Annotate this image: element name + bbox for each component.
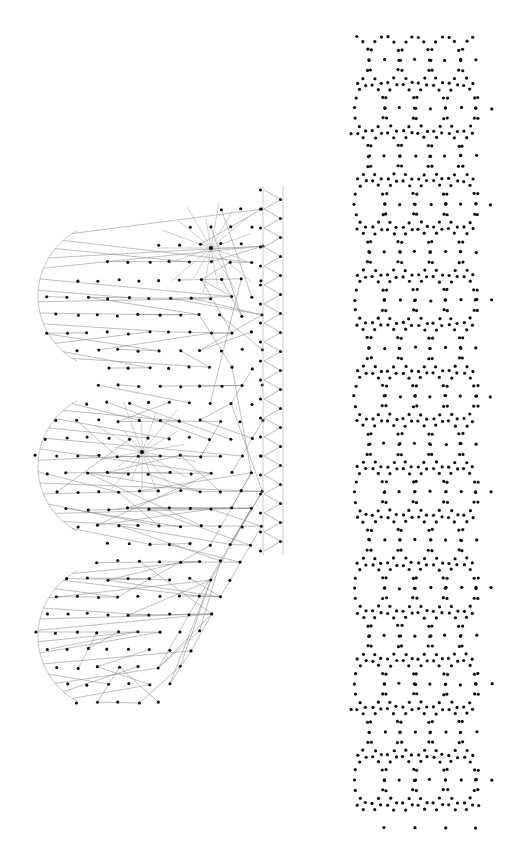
ring-dot (435, 173, 438, 176)
lattice-dot (230, 506, 233, 509)
ring-dot (381, 384, 384, 387)
ring-dot (383, 778, 386, 781)
ring-dot (384, 673, 387, 676)
ring-dot (417, 515, 420, 518)
ring-dot (364, 513, 367, 516)
ring-dot (395, 755, 398, 758)
connector-segment (169, 545, 240, 563)
ring-dot (450, 280, 453, 283)
ring-dot (454, 749, 457, 752)
ring-dot (402, 129, 405, 132)
lattice-dot (105, 648, 108, 651)
ring-dot (359, 605, 362, 608)
ring-dot (447, 419, 450, 422)
ring-dot (380, 35, 383, 38)
ring-center-dot (383, 250, 386, 253)
ring-dot (415, 692, 418, 695)
ring-dot (426, 48, 429, 51)
ring-dot (389, 124, 392, 127)
ring-dot (398, 347, 401, 350)
ring-dot (438, 183, 441, 186)
ring-dot (370, 529, 373, 532)
ring-dot (386, 419, 389, 422)
connector-segment (158, 631, 199, 668)
ring-dot (430, 48, 433, 51)
lattice-dot (157, 244, 160, 247)
lattice-dot (127, 367, 130, 370)
lattice-dot (46, 472, 49, 475)
lattice-dot (208, 366, 211, 369)
ring-dot (366, 260, 369, 263)
lattice-dot (137, 455, 140, 458)
ring-dot (427, 432, 430, 435)
ring-dot (377, 760, 380, 763)
ring-dot (427, 241, 430, 244)
ring-dot (476, 384, 479, 387)
ring-dot (415, 404, 418, 407)
ring-dot (392, 136, 395, 139)
ring-dot (443, 213, 446, 216)
ring-dot (465, 808, 468, 811)
lattice-dot (86, 471, 89, 474)
lattice-dot (149, 261, 152, 264)
ring-dot (381, 404, 384, 407)
rail-vertex-dot (259, 341, 262, 344)
ring-dot (427, 453, 430, 456)
ring-center-dot (413, 826, 416, 829)
ring-dot (381, 768, 384, 771)
ring-dot (471, 177, 474, 180)
lattice-dot (76, 631, 79, 634)
lattice-dot (137, 280, 140, 283)
ring-dot (414, 298, 417, 301)
ring-dot (358, 317, 361, 320)
ring-dot (420, 184, 423, 187)
ring-dot (476, 288, 479, 291)
ring-dot (404, 712, 407, 715)
ring-dot (430, 144, 433, 147)
lattice-dot (77, 525, 80, 528)
ring-dot (474, 586, 477, 589)
ring-dot (377, 88, 380, 91)
ring-dot (400, 48, 403, 51)
ring-dot (456, 467, 459, 470)
ring-dot (412, 577, 415, 580)
ring-dot (442, 193, 445, 196)
lattice-dot (127, 473, 130, 476)
lattice-dot (178, 630, 181, 633)
ring-dot (444, 202, 447, 205)
ring-dot (468, 472, 471, 475)
ring-dot (407, 88, 410, 91)
ring-dot (415, 213, 418, 216)
ring-dot (386, 516, 389, 519)
ring-dot (438, 317, 441, 320)
ring-dot (379, 274, 382, 277)
lattice-dot (118, 278, 121, 281)
lattice-dot (45, 295, 48, 298)
lattice-dot (96, 701, 99, 704)
lattice-dot (200, 278, 203, 281)
lattice-dot (187, 613, 190, 616)
ring-dot (399, 721, 402, 724)
ring-dot (373, 40, 376, 43)
ring-center-dot (490, 107, 493, 110)
arc-sweep-segment (63, 352, 150, 368)
lattice-dot (240, 384, 243, 387)
ring-dot (417, 707, 420, 710)
ring-dot (412, 308, 415, 311)
ring-center-dot (444, 346, 447, 349)
lattice-dot (97, 418, 100, 421)
lattice-dot (209, 508, 212, 511)
ring-dot (415, 117, 418, 120)
ring-dot (427, 549, 430, 552)
ring-dot (384, 501, 387, 504)
lattice-dot (96, 313, 99, 316)
lattice-dot (189, 507, 192, 510)
ring-dot (366, 240, 369, 243)
starburst-ray (211, 217, 249, 248)
rail-vertex-dot (279, 540, 282, 543)
ring-dot (431, 644, 434, 647)
lattice-dot (168, 506, 171, 509)
ring-dot (417, 370, 420, 373)
connector-segment (170, 580, 211, 684)
ring-dot (361, 521, 364, 524)
